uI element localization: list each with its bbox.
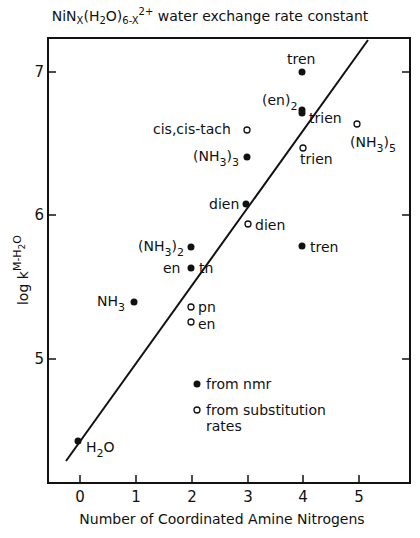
label-cis-cis-tach: cis,cis-tach: [153, 121, 231, 137]
data-point: [245, 221, 251, 227]
y-axis: [48, 72, 410, 359]
y-tick-6: 6: [34, 206, 44, 224]
data-point: [299, 110, 306, 117]
y-tick-7: 7: [34, 63, 44, 81]
data-point: [354, 121, 360, 127]
x-tick-5: 5: [354, 488, 364, 506]
label-nh3: NH3: [97, 293, 125, 314]
point-labels: tren (en)2 trien trien (NH3)5 cis,cis-ta…: [86, 51, 396, 460]
label-en2: (en)2: [262, 92, 297, 113]
scatter-chart: 7 6 5 0 1 2 3 4 5 Number of Coordinated …: [0, 0, 420, 538]
legend-label-rates: rates: [206, 418, 242, 434]
label-tren-low: tren: [310, 239, 338, 255]
label-dien-open: dien: [255, 217, 285, 233]
x-axis: [80, 475, 359, 483]
data-point: [243, 201, 250, 208]
x-tick-0: 0: [75, 488, 85, 506]
y-tick-labels: 7 6 5: [34, 63, 44, 368]
label-nh3-2: (NH3)2: [138, 238, 184, 259]
data-point: [244, 127, 250, 133]
label-h2o: H2O: [86, 439, 115, 460]
label-en-open: en: [198, 316, 216, 332]
x-axis-label: Number of Coordinated Amine Nitrogens: [79, 511, 364, 527]
data-point: [131, 299, 138, 306]
legend-label-substitution: from substitution: [206, 402, 326, 418]
label-tren-top: tren: [287, 51, 315, 67]
x-tick-labels: 0 1 2 3 4 5: [75, 488, 364, 506]
data-point: [188, 319, 194, 325]
legend-marker-filled: [194, 381, 201, 388]
legend-marker-open: [194, 407, 200, 413]
y-tick-5: 5: [34, 350, 44, 368]
data-point: [299, 69, 306, 76]
data-point: [299, 243, 306, 250]
svg-text:log kM-H2O: log kM-H2O: [11, 235, 31, 305]
data-point: [188, 244, 195, 251]
y-axis-label: log kM-H2O: [11, 235, 31, 305]
x-tick-2: 2: [187, 488, 197, 506]
data-point: [244, 154, 251, 161]
label-nh3-3: (NH3)3: [193, 148, 239, 169]
legend: from nmr from substitution rates: [194, 376, 326, 434]
label-en-filled: en: [163, 260, 181, 276]
x-tick-4: 4: [298, 488, 308, 506]
label-trien-open: trien: [300, 151, 333, 167]
x-tick-3: 3: [243, 488, 253, 506]
data-point: [188, 265, 195, 272]
label-nh3-5: (NH3)5: [350, 134, 396, 155]
label-dien-filled: dien: [209, 196, 239, 212]
label-trien-filled: trien: [309, 110, 342, 126]
legend-label-nmr: from nmr: [206, 376, 272, 392]
label-tn: tn: [199, 260, 213, 276]
data-point: [188, 304, 194, 310]
label-pn: pn: [198, 299, 216, 315]
data-point: [75, 438, 82, 445]
x-tick-1: 1: [131, 488, 141, 506]
